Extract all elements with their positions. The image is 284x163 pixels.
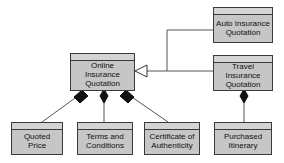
class-node-label: Travel Insurance Quotation — [214, 63, 272, 90]
class-node-label: Terms and Conditions — [78, 130, 132, 154]
class-node-header-bar — [145, 123, 199, 130]
class-node-auto-insurance-quotation[interactable]: Auto Insurance Quotation — [213, 7, 273, 43]
class-node-header-bar — [214, 8, 272, 15]
composition-filled-diamond-icon-purchased-itinerary — [240, 89, 248, 103]
class-node-header-bar — [12, 123, 62, 130]
composition-filled-diamond-icon-quoted-price — [74, 90, 88, 103]
class-node-quoted-price[interactable]: Quoted Price — [11, 122, 63, 155]
edge-auto-generalizes-online — [167, 30, 213, 71]
generalization-hollow-triangle-icon — [135, 65, 147, 77]
class-node-label: Purchased Itinerary — [215, 130, 271, 154]
class-node-online-insurance-quotation[interactable]: Online Insurance Quotation — [70, 53, 135, 91]
composition-filled-diamond-icon-certificate-of-authenticity — [120, 90, 134, 103]
composition-filled-diamond-icon-terms-and-conditions — [100, 89, 108, 103]
class-node-header-bar — [71, 54, 134, 61]
class-node-certificate-of-authenticity[interactable]: Certificate of Authenticity — [144, 122, 200, 155]
class-node-purchased-itinerary[interactable]: Purchased Itinerary — [214, 122, 272, 155]
class-node-terms-and-conditions[interactable]: Terms and Conditions — [77, 122, 133, 155]
uml-diagram-canvas: Auto Insurance Quotation Travel Insuranc… — [0, 0, 284, 163]
class-node-label: Certificate of Authenticity — [145, 130, 199, 154]
class-node-header-bar — [215, 123, 271, 130]
class-node-label: Auto Insurance Quotation — [214, 15, 272, 42]
class-node-header-bar — [78, 123, 132, 130]
class-node-travel-insurance-quotation[interactable]: Travel Insurance Quotation — [213, 55, 273, 91]
class-node-label: Online Insurance Quotation — [71, 61, 134, 90]
class-node-label: Quoted Price — [12, 130, 62, 154]
